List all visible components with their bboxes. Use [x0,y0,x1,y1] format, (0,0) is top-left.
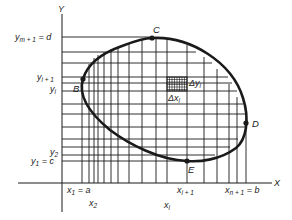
point-c [149,35,154,40]
region-partition-diagram: B C D E Y X ym + 1 = d yi + 1 yi y2 y1 =… [0,0,292,220]
point-label-b: B [73,83,80,94]
x-tick-labels: x1 = a x2 xi xi + 1 xn + 1 = b [66,185,259,211]
svg-text:ym + 1 = d: ym + 1 = d [14,32,52,43]
horizontal-grid-lines [62,37,246,161]
point-label-e: E [188,164,195,175]
axes [18,14,272,212]
svg-text:xi: xi [163,200,171,211]
y-axis-label: Y [58,4,65,14]
svg-text:xi + 1: xi + 1 [176,185,194,196]
point-label-d: D [252,118,259,129]
svg-text:xn + 1 = b: xn + 1 = b [224,185,259,196]
svg-text:yi: yi [49,84,57,95]
y-tick-labels: ym + 1 = d yi + 1 yi y2 y1 = c [14,32,59,167]
svg-text:x2: x2 [88,198,98,209]
point-e [184,158,189,163]
area-element-cell [167,77,187,91]
point-label-c: C [153,24,160,35]
svg-text:x1 = a: x1 = a [66,185,90,196]
delta-y-label: Δyi [188,78,202,89]
delta-x-label: Δxi [167,93,181,104]
point-d [243,120,248,125]
svg-text:yi + 1: yi + 1 [36,72,54,83]
boundary-curve [82,38,247,161]
point-b [80,76,85,81]
svg-text:y1 = c: y1 = c [30,156,54,167]
x-axis-label: X [273,178,281,188]
